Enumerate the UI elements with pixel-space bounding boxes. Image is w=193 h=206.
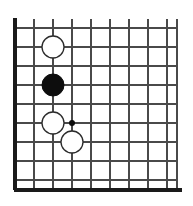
grid-horizontal-lines [15, 28, 177, 180]
go-board-canvas [0, 0, 193, 206]
star-points-group [69, 120, 75, 126]
go-board-diagram [0, 0, 193, 206]
white-stone-lower-left[interactable] [42, 112, 64, 134]
black-stone-middle[interactable] [42, 74, 64, 96]
white-stone-upper[interactable] [42, 36, 64, 58]
star-point-marker [69, 120, 75, 126]
stones-group [42, 36, 83, 153]
white-stone-lower-right[interactable] [61, 131, 83, 153]
